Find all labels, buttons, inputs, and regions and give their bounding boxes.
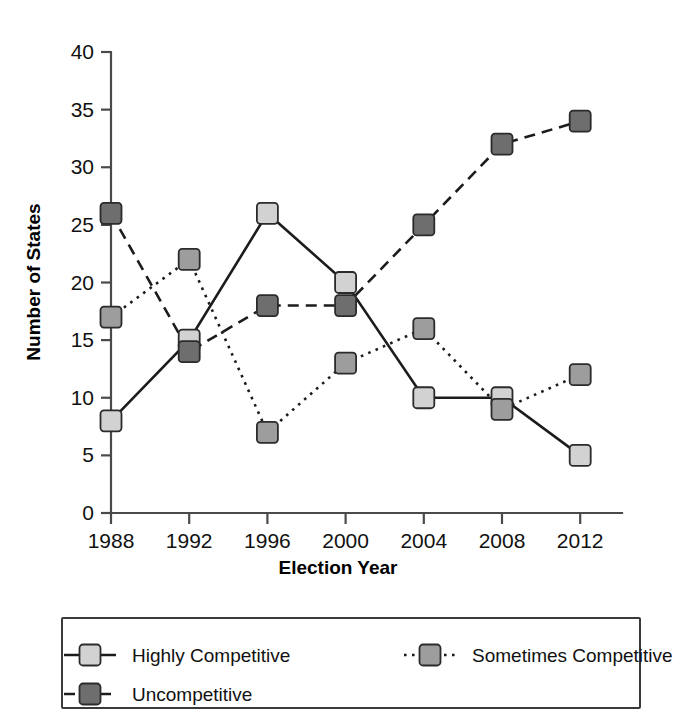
x-axis-ticks: 1988199219962000200420082012 (88, 513, 604, 552)
data-point-marker (335, 295, 356, 316)
chart-figure: 0510152025303540 19881992199620002004200… (0, 0, 676, 727)
x-tick-label: 2004 (400, 529, 447, 552)
x-tick-label: 1992 (166, 529, 213, 552)
y-tick-label: 10 (71, 386, 94, 409)
data-point-marker (413, 214, 434, 235)
x-tick-label: 2000 (322, 529, 369, 552)
data-point-marker (257, 295, 278, 316)
y-tick-label: 40 (71, 40, 94, 63)
data-point-marker (179, 341, 200, 362)
data-point-marker (257, 422, 278, 443)
series-layer (101, 111, 591, 466)
data-point-marker (101, 203, 122, 224)
y-tick-label: 5 (82, 443, 94, 466)
x-tick-label: 2008 (479, 529, 526, 552)
y-axis-title: Number of States (23, 203, 44, 360)
y-tick-label: 30 (71, 155, 94, 178)
data-point-marker (570, 111, 591, 132)
y-tick-label: 20 (71, 271, 94, 294)
data-point-marker (492, 134, 513, 155)
x-tick-label: 2012 (557, 529, 604, 552)
data-point-marker (413, 387, 434, 408)
data-point-marker (570, 364, 591, 385)
x-tick-label: 1988 (88, 529, 135, 552)
series-line (111, 121, 580, 352)
y-tick-label: 0 (82, 501, 94, 524)
legend-swatch (420, 645, 441, 666)
data-point-marker (335, 353, 356, 374)
data-point-marker (413, 318, 434, 339)
x-axis-title: Election Year (279, 557, 399, 578)
legend-swatch (80, 684, 101, 705)
data-point-marker (335, 272, 356, 293)
legend-label: Highly Competitive (132, 645, 290, 666)
data-point-marker (257, 203, 278, 224)
x-tick-label: 1996 (244, 529, 291, 552)
y-tick-label: 15 (71, 328, 94, 351)
y-tick-label: 35 (71, 98, 94, 121)
legend-label: Sometimes Competitive (472, 645, 673, 666)
data-point-marker (101, 410, 122, 431)
y-tick-label: 25 (71, 213, 94, 236)
marker-layer (101, 111, 591, 466)
legend-label: Uncompetitive (132, 684, 252, 705)
chart-svg: 0510152025303540 19881992199620002004200… (0, 0, 676, 727)
y-axis-ticks: 0510152025303540 (71, 40, 111, 524)
data-point-marker (492, 399, 513, 420)
data-point-marker (101, 307, 122, 328)
legend-swatch (80, 645, 101, 666)
data-point-marker (570, 445, 591, 466)
data-point-marker (179, 249, 200, 270)
